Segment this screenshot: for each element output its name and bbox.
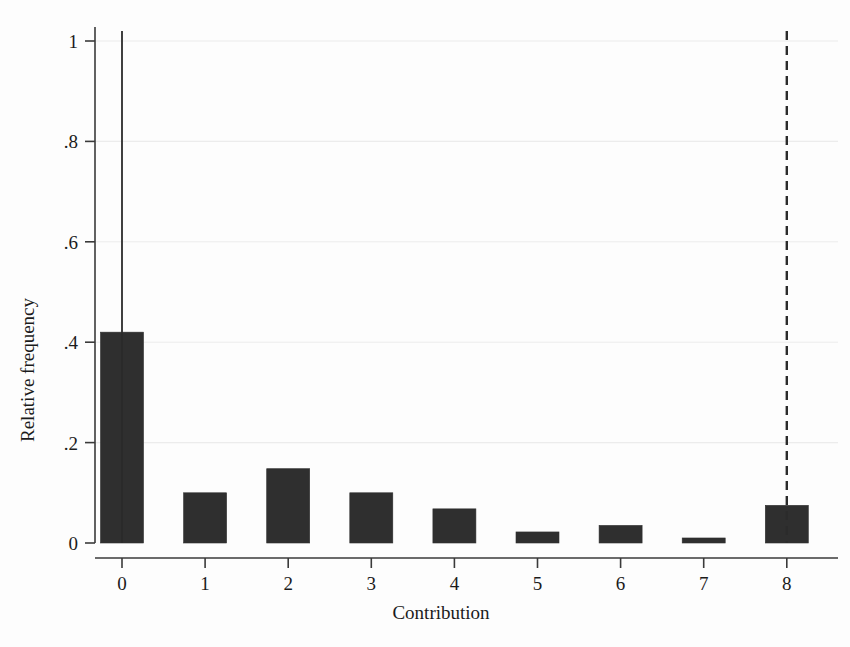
x-tick-label-7: 7 (699, 573, 709, 594)
chart-canvas: 0.2.4.6.81 012345678 Relative frequency … (0, 0, 850, 647)
y-tick-label-.2: .2 (64, 433, 78, 454)
y-tick-label-.8: .8 (64, 131, 78, 152)
bar-7 (682, 538, 725, 543)
bar-6 (599, 525, 642, 543)
relative-frequency-bar-chart: 0.2.4.6.81 012345678 Relative frequency … (0, 0, 850, 647)
y-tick-label-.6: .6 (64, 232, 78, 253)
y-tick-label-1: 1 (69, 31, 79, 52)
y-axis-label: Relative frequency (17, 297, 38, 442)
x-axis-label: Contribution (392, 602, 490, 623)
x-tick-label-5: 5 (533, 573, 543, 594)
x-tick-label-1: 1 (200, 573, 210, 594)
x-tick-label-2: 2 (283, 573, 293, 594)
x-tick-label-8: 8 (782, 573, 792, 594)
x-tick-label-4: 4 (450, 573, 460, 594)
bar-1 (184, 493, 227, 543)
y-tick-label-0: 0 (69, 533, 79, 554)
bar-5 (516, 532, 559, 543)
bar-2 (267, 469, 310, 543)
x-tick-label-0: 0 (117, 573, 127, 594)
x-tick-label-6: 6 (616, 573, 626, 594)
bar-3 (350, 493, 393, 543)
y-tick-label-.4: .4 (64, 332, 79, 353)
x-tick-label-3: 3 (367, 573, 377, 594)
bar-4 (433, 509, 476, 543)
chart-background (0, 0, 850, 647)
